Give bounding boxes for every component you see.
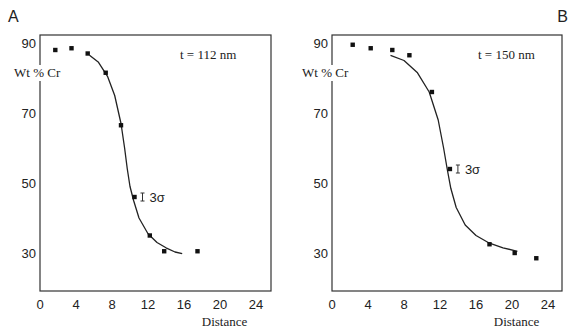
x-tick-label: 24 [541, 297, 555, 312]
data-point [351, 43, 355, 47]
thickness-annotation: t = 150 nm [478, 47, 535, 62]
x-tick-label: 16 [177, 297, 191, 312]
data-point [390, 48, 394, 52]
x-tick-label: 8 [400, 297, 407, 312]
error-label: 3σ [150, 190, 165, 205]
plot-frame [40, 35, 271, 291]
y-axis-label: Wt % Cr [14, 65, 61, 80]
x-tick-label: 8 [108, 297, 115, 312]
x-tick-label: 4 [364, 297, 371, 312]
data-point [369, 46, 373, 50]
x-tick-label: 16 [469, 297, 483, 312]
y-tick-label: 70 [314, 106, 328, 121]
data-point [487, 242, 491, 246]
data-point [448, 167, 452, 171]
y-tick-label: 50 [314, 176, 328, 191]
x-tick-label: 20 [505, 297, 519, 312]
x-tick-label: 12 [141, 297, 155, 312]
data-point [195, 249, 199, 253]
data-point [132, 195, 136, 199]
data-point [104, 71, 108, 75]
x-tick-label: 24 [249, 297, 263, 312]
data-point [430, 90, 434, 94]
y-tick-label: 70 [22, 106, 36, 121]
x-tick-label: 0 [328, 297, 335, 312]
y-tick-label: 90 [314, 36, 328, 51]
x-tick-label: 20 [213, 297, 227, 312]
chart-panel-b: B30507090Wt % Cr04812162024Distancet = 1… [300, 8, 568, 329]
data-point [162, 249, 166, 253]
chart-panel-a: A30507090Wt % Cr04812162024Distancet = 1… [8, 8, 271, 329]
x-axis-label: Distance [202, 314, 248, 329]
plot-frame [332, 35, 562, 291]
data-point [513, 251, 517, 255]
data-point [69, 46, 73, 50]
chart-figure: A30507090Wt % Cr04812162024Distancet = 1… [0, 0, 576, 335]
data-point [119, 123, 123, 127]
data-point [148, 233, 152, 237]
error-label: 3σ [465, 162, 480, 177]
data-point [53, 48, 57, 52]
y-tick-label: 30 [22, 246, 36, 261]
fit-curve [90, 55, 183, 253]
x-tick-label: 4 [72, 297, 79, 312]
data-point [407, 53, 411, 57]
panel-label: B [557, 8, 568, 25]
panel-label: A [8, 8, 19, 25]
data-point [534, 256, 538, 260]
y-tick-label: 90 [22, 36, 36, 51]
x-axis-label: Distance [494, 314, 540, 329]
y-axis-label: Wt % Cr [302, 65, 349, 80]
thickness-annotation: t = 112 nm [180, 47, 236, 62]
x-tick-label: 0 [36, 297, 43, 312]
fit-curve [391, 55, 518, 251]
data-point [86, 51, 90, 55]
y-tick-label: 50 [22, 176, 36, 191]
x-tick-label: 12 [433, 297, 447, 312]
y-tick-label: 30 [314, 246, 328, 261]
